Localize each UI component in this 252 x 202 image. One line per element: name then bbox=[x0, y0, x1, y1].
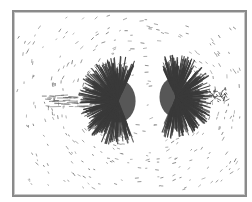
right-pole-filings bbox=[160, 55, 212, 138]
iron-filings-photo bbox=[0, 0, 252, 202]
